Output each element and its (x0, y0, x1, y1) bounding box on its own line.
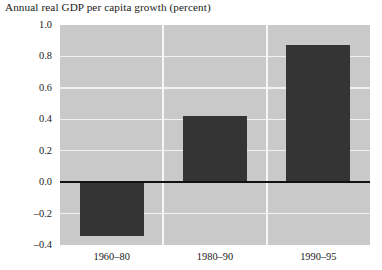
chart-title: Annual real GDP per capita growth (perce… (5, 1, 211, 14)
zero-baseline (60, 181, 370, 183)
y-tick-label: 0.0 (0, 177, 56, 187)
x-tick-label: 1990–95 (300, 250, 336, 263)
y-tick-label: 0.6 (0, 83, 56, 93)
x-tick-label: 1960–80 (93, 250, 129, 263)
panel-separator (266, 25, 268, 245)
y-tick-label: –0.2 (0, 209, 56, 219)
y-tick-label: 1.0 (0, 20, 56, 30)
bar (183, 116, 247, 182)
y-tick-label: 0.4 (0, 114, 56, 124)
x-tick-label: 1980–90 (197, 250, 233, 263)
plot-area (60, 25, 370, 245)
panel-separator (162, 25, 164, 245)
y-axis: 1.00.80.60.40.20.0–0.2–0.4 (0, 25, 56, 245)
y-tick-label: 0.8 (0, 51, 56, 61)
y-tick-label: 0.2 (0, 146, 56, 156)
y-tick-label: –0.4 (0, 240, 56, 250)
bar (80, 182, 144, 235)
x-axis: 1960–801980–901990–95 (60, 250, 370, 266)
bar (286, 45, 350, 182)
